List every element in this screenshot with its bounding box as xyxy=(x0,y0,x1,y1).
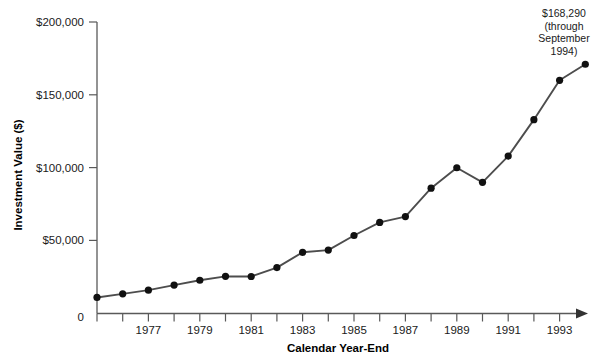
x-tick-labels: 1977 1979 1981 1983 1985 1987 1989 1991 … xyxy=(136,324,573,336)
x-tick-label-1977: 1977 xyxy=(136,324,162,336)
data-point-marker xyxy=(479,179,486,186)
x-tick-label-1981: 1981 xyxy=(238,324,264,336)
investment-value-line-chart: $200,000 $150,000 $100,000 $50,000 0 Inv… xyxy=(0,0,600,358)
annotation-line-value: $168,290 xyxy=(542,7,586,19)
data-point-marker xyxy=(145,287,152,294)
data-point-marker xyxy=(582,61,589,68)
x-axis-title: Calendar Year-End xyxy=(287,342,389,354)
investment-value-series-line xyxy=(97,64,585,297)
data-point-marker xyxy=(196,277,203,284)
x-tick-label-1993: 1993 xyxy=(547,324,573,336)
x-tick-label-1991: 1991 xyxy=(495,324,521,336)
y-tick-label-100000: $100,000 xyxy=(36,162,84,174)
data-point-marker xyxy=(505,152,512,159)
y-tick-labels: $200,000 $150,000 $100,000 $50,000 0 xyxy=(36,16,84,323)
data-point-marker xyxy=(556,77,563,84)
data-point-marker xyxy=(325,247,332,254)
data-point-marker xyxy=(350,232,357,239)
data-point-marker xyxy=(248,273,255,280)
y-axis xyxy=(89,22,97,314)
data-point-marker xyxy=(402,213,409,220)
y-tick-label-50000: $50,000 xyxy=(42,234,84,246)
data-point-marker xyxy=(273,264,280,271)
annotation-line-year: 1994) xyxy=(551,45,578,57)
x-axis-arrow-icon xyxy=(576,309,588,319)
data-point-marker xyxy=(530,116,537,123)
y-tick-label-150000: $150,000 xyxy=(36,89,84,101)
x-axis xyxy=(97,309,588,322)
x-tick-label-1985: 1985 xyxy=(341,324,367,336)
data-point-marker xyxy=(171,281,178,288)
chart-canvas: $200,000 $150,000 $100,000 $50,000 0 Inv… xyxy=(0,0,600,358)
x-tick-label-1983: 1983 xyxy=(290,324,316,336)
annotation-line-through: (through xyxy=(544,20,583,32)
data-point-marker xyxy=(376,219,383,226)
y-axis-title: Investment Value ($) xyxy=(12,119,24,230)
data-point-marker xyxy=(222,273,229,280)
x-tick-label-1979: 1979 xyxy=(187,324,213,336)
data-point-marker xyxy=(428,185,435,192)
y-tick-label-200000: $200,000 xyxy=(36,16,84,28)
final-value-annotation: $168,290 (through September 1994) xyxy=(538,7,590,57)
data-point-marker xyxy=(453,164,460,171)
investment-value-series-markers xyxy=(93,61,589,301)
x-tick-label-1987: 1987 xyxy=(393,324,419,336)
x-tick-label-1989: 1989 xyxy=(444,324,470,336)
data-point-marker xyxy=(299,249,306,256)
annotation-line-month: September xyxy=(538,32,590,44)
y-tick-label-0: 0 xyxy=(78,311,84,323)
data-point-marker xyxy=(119,290,126,297)
data-point-marker xyxy=(93,294,100,301)
